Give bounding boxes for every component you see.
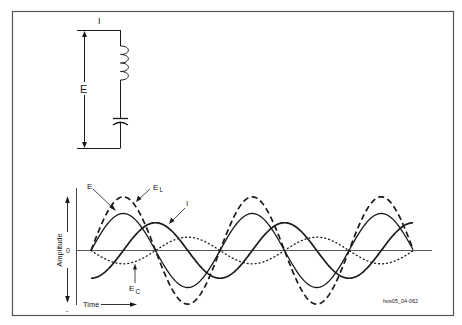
annotations xyxy=(93,189,185,283)
zero-label: 0 xyxy=(66,247,70,254)
waveform-axes xyxy=(65,188,432,307)
label-E: E xyxy=(87,182,92,191)
pointer-E xyxy=(93,189,113,208)
x-axis-label: Time xyxy=(83,300,99,309)
minus-label: - xyxy=(66,307,69,314)
circuit-voltage-label: E xyxy=(80,83,87,95)
amplitude-arrow-up-head xyxy=(65,196,70,203)
label-EC: E xyxy=(129,284,134,293)
pointer-I xyxy=(172,208,185,221)
voltage-arrow-head-down xyxy=(82,142,87,148)
pointer-I-head xyxy=(169,218,175,225)
voltage-arrow-head-up xyxy=(82,31,87,37)
diagram-canvas: I E Amplitude 0 - Time E E L I E C hos05… xyxy=(0,0,462,325)
circuit-current-label: I xyxy=(98,16,101,26)
pointer-EL-head xyxy=(136,196,142,203)
label-EL: E xyxy=(153,183,158,192)
pointer-EC-head xyxy=(133,264,137,270)
figure-frame xyxy=(13,12,454,316)
amplitude-arrow-down-head xyxy=(65,296,70,303)
inductor-icon xyxy=(121,46,129,80)
label-I: I xyxy=(186,199,188,208)
y-axis-label: Amplitude xyxy=(55,233,64,266)
figure-id-label: hos05_04-062 xyxy=(383,298,418,304)
label-EC-sub: C xyxy=(136,288,141,295)
pointer-EL xyxy=(139,189,150,199)
label-EL-sub: L xyxy=(160,186,164,193)
time-arrow-head xyxy=(130,302,137,306)
